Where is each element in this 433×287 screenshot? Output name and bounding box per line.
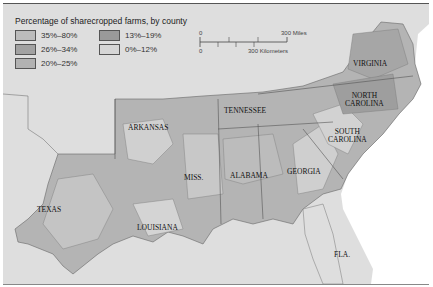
label-mississippi: MISS.: [184, 174, 203, 182]
legend-label: 20%–25%: [41, 59, 77, 68]
label-text: CAROLINA: [345, 100, 384, 108]
label-text: CAROLINA: [328, 136, 367, 144]
scale-km-label: 300 Kilometers: [248, 48, 288, 54]
legend-item-35-80: 35%–80%: [15, 30, 99, 41]
scale-miles-zero: 0: [199, 30, 202, 36]
legend-swatch: [15, 30, 36, 41]
legend-label: 26%–34%: [41, 45, 77, 54]
scale-miles-label: 300 Miles: [281, 30, 307, 36]
legend-label: 0%–12%: [125, 45, 157, 54]
label-alabama: ALABAMA: [230, 172, 268, 180]
legend-item-13-19: 13%–19%: [99, 30, 179, 41]
legend-item-26-34: 26%–34%: [15, 44, 99, 55]
label-south-carolina: SOUTH CAROLINA: [328, 128, 367, 144]
legend-swatch: [99, 30, 120, 41]
label-north-carolina: NORTH CAROLINA: [345, 92, 384, 108]
legend-title: Percentage of sharecropped farms, by cou…: [15, 16, 187, 26]
legend-item-20-25: 20%–25%: [15, 58, 99, 69]
legend-swatch: [15, 44, 36, 55]
label-arkansas: ARKANSAS: [128, 124, 168, 132]
label-louisiana: LOUISIANA: [137, 224, 178, 232]
legend-swatch: [15, 58, 36, 69]
scale-ruler: [199, 37, 291, 47]
label-texas: TEXAS: [37, 206, 61, 214]
legend-label: 35%–80%: [41, 31, 77, 40]
legend-label: 13%–19%: [125, 31, 161, 40]
legend-swatch: [99, 44, 120, 55]
legend-item-0-12: 0%–12%: [99, 44, 179, 55]
scale-km-zero: 0: [199, 48, 202, 54]
scale-bar: 0 300 Miles 0 300 Kilometers: [199, 30, 294, 60]
label-tennessee: TENNESSEE: [224, 107, 266, 115]
label-georgia: GEORGIA: [287, 168, 321, 176]
label-virginia: VIRGINIA: [353, 60, 387, 68]
label-florida: FLA.: [334, 251, 350, 259]
legend: Percentage of sharecropped farms, by cou…: [15, 16, 187, 69]
map-frame: Percentage of sharecropped farms, by cou…: [3, 3, 429, 285]
